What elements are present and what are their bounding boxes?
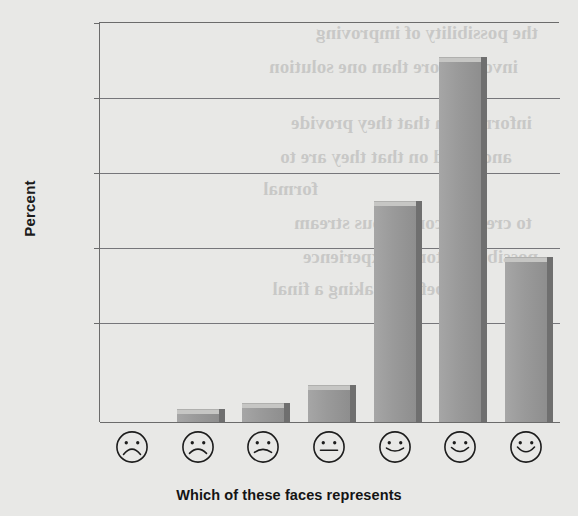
xtick-sad-face-icon (181, 430, 215, 464)
bar-side (481, 57, 487, 422)
xtick-slightly-sad-face-icon (246, 430, 280, 464)
gridline-20 (100, 248, 560, 249)
ytick-mark-30 (94, 173, 100, 174)
ytick-mark-40 (94, 98, 100, 99)
bar-very-happy-face[interactable] (505, 262, 547, 422)
bar-side (219, 409, 225, 422)
bar-cap (374, 201, 416, 206)
gridline-40 (100, 98, 560, 99)
bar-cap (177, 409, 219, 414)
bar-side (547, 257, 553, 422)
bar-side (350, 385, 356, 422)
bar-slightly-happy-face[interactable] (374, 206, 416, 422)
gridline-30 (100, 173, 560, 174)
bar-neutral-face[interactable] (308, 390, 350, 422)
bar-happy-face[interactable] (439, 62, 481, 422)
axis-baseline (100, 422, 560, 423)
bar-sad-face[interactable] (177, 414, 219, 422)
bar-chart: Percent 50 40 30 20 10 Which of these (0, 0, 578, 516)
ytick-mark-20 (94, 248, 100, 249)
xtick-happy-face-icon (443, 430, 477, 464)
bar-side (284, 403, 290, 422)
plot-area: 50 40 30 20 10 (99, 22, 559, 422)
bar-slightly-sad-face[interactable] (242, 408, 284, 422)
gridline-10 (100, 323, 560, 324)
bar-cap (308, 385, 350, 390)
bar-cap (242, 403, 284, 408)
x-axis-title: Which of these faces represents (0, 487, 578, 503)
xtick-very-sad-face-icon (115, 430, 149, 464)
bar-cap (505, 257, 547, 262)
ytick-mark-50 (94, 23, 100, 24)
ytick-mark-10 (94, 323, 100, 324)
bar-cap (439, 57, 481, 62)
bar-side (416, 201, 422, 422)
xtick-slightly-happy-face-icon (378, 430, 412, 464)
xtick-very-happy-face-icon (509, 430, 543, 464)
y-axis-title: Percent (21, 164, 38, 254)
xtick-neutral-face-icon (312, 430, 346, 464)
